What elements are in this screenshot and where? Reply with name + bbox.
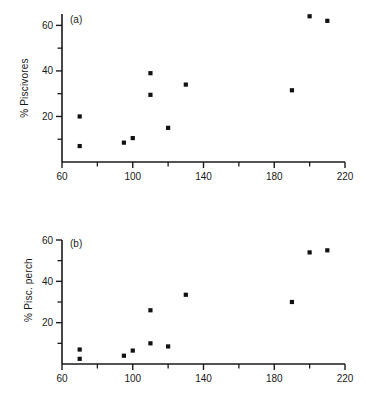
y-tick-label: 40 <box>42 276 54 287</box>
data-point-marker <box>184 82 188 86</box>
data-point-marker <box>131 348 135 352</box>
x-tick-label: 180 <box>266 171 283 182</box>
x-tick-label: 60 <box>56 373 68 384</box>
x-tick-label: 60 <box>56 171 68 182</box>
data-point-marker <box>290 300 294 304</box>
data-point-marker <box>148 93 152 97</box>
panel-a: 60100140180220204060 % Piscivores (a) <box>0 0 366 200</box>
x-tick-label: 140 <box>195 171 212 182</box>
data-point-marker <box>325 248 329 252</box>
data-point-marker <box>148 308 152 312</box>
x-tick-label: 220 <box>337 171 354 182</box>
data-point-marker <box>148 71 152 75</box>
data-point-marker <box>166 126 170 130</box>
data-point-marker <box>308 14 312 18</box>
data-point-marker <box>290 88 294 92</box>
panel-a-plot-area: 60100140180220204060 % Piscivores (a) <box>0 0 366 200</box>
y-tick-label: 40 <box>42 65 54 76</box>
data-point-marker <box>325 19 329 23</box>
y-tick-label: 20 <box>42 111 54 122</box>
data-point-marker <box>148 341 152 345</box>
x-tick-label: 100 <box>124 171 141 182</box>
x-tick-label: 100 <box>124 373 141 384</box>
panel-b-svg: 60100140180220204060 <box>0 202 366 402</box>
y-tick-label: 60 <box>42 235 54 246</box>
x-tick-label: 140 <box>195 373 212 384</box>
panel-a-svg: 60100140180220204060 <box>0 0 366 200</box>
data-point-marker <box>78 347 82 351</box>
panel-b: 60100140180220204060 % Pisc. perch (b) <box>0 202 366 402</box>
panel-b-label: (b) <box>70 238 82 249</box>
panel-a-label: (a) <box>70 14 82 25</box>
data-point-marker <box>78 357 82 361</box>
y-tick-label: 20 <box>42 317 54 328</box>
data-point-marker <box>308 250 312 254</box>
panel-a-y-axis-label: % Piscivores <box>19 28 30 148</box>
panel-b-plot-area: 60100140180220204060 % Pisc. perch (b) <box>0 202 366 402</box>
x-tick-label: 180 <box>266 373 283 384</box>
data-point-marker <box>131 136 135 140</box>
data-point-marker <box>122 354 126 358</box>
x-tick-label: 220 <box>337 373 354 384</box>
data-point-marker <box>78 114 82 118</box>
panel-b-y-axis-label: % Pisc. perch <box>23 230 34 350</box>
data-point-marker <box>78 144 82 148</box>
y-tick-label: 60 <box>42 20 54 31</box>
data-point-marker <box>166 344 170 348</box>
data-point-marker <box>184 293 188 297</box>
data-point-marker <box>122 141 126 145</box>
figure-two-panel-scatter: 60100140180220204060 % Piscivores (a) 60… <box>0 0 366 403</box>
